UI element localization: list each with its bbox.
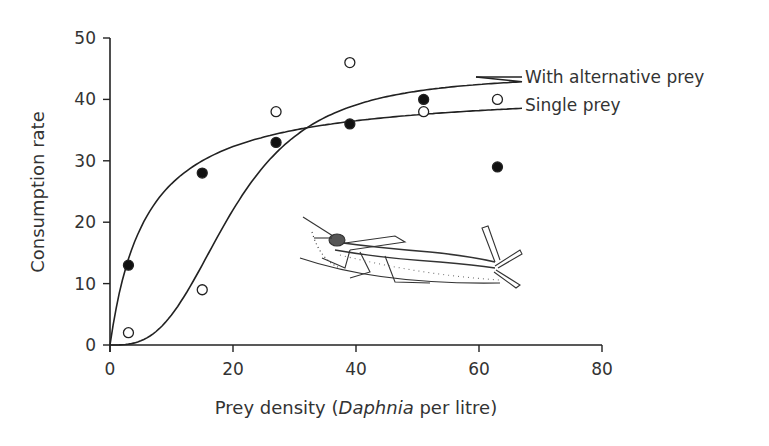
single-prey-point: [123, 260, 133, 270]
functional-response-chart: 020406080 01020304050 Consumption rate P…: [0, 0, 769, 446]
single-prey-point: [345, 119, 355, 129]
alternative-prey-point: [419, 107, 429, 117]
alternative-prey-point: [345, 58, 355, 68]
alternative-prey-point: [271, 107, 281, 117]
y-tick-label: 50: [74, 28, 96, 48]
alternative-prey-curve: [110, 77, 522, 345]
single-prey-point: [271, 137, 281, 147]
damselfly-larva-illustration: [300, 217, 522, 288]
y-tick-label: 30: [74, 151, 96, 171]
x-tick-label: 20: [222, 359, 244, 379]
x-tick-label: 60: [468, 359, 490, 379]
x-tick-label: 0: [105, 359, 116, 379]
label-single-prey: Single prey: [525, 95, 621, 115]
single-prey-point: [197, 168, 207, 178]
y-axis-title: Consumption rate: [27, 111, 48, 273]
label-with-alternative-prey: With alternative prey: [525, 67, 704, 87]
alternative-prey-point: [492, 94, 502, 104]
x-tick-label: 40: [345, 359, 367, 379]
y-tick-label: 20: [74, 212, 96, 232]
x-tick-label: 80: [591, 359, 613, 379]
y-tick-label: 0: [85, 335, 96, 355]
single-prey-curve: [110, 108, 522, 345]
single-prey-point: [419, 94, 429, 104]
y-ticks: 01020304050: [74, 28, 110, 355]
x-axis-title: Prey density (Daphnia per litre): [215, 397, 497, 418]
data-points: [123, 58, 502, 338]
alternative-prey-point: [123, 328, 133, 338]
single-prey-point: [492, 162, 502, 172]
y-tick-label: 10: [74, 274, 96, 294]
y-tick-label: 40: [74, 89, 96, 109]
alternative-prey-point: [197, 285, 207, 295]
x-ticks: 020406080: [105, 345, 613, 379]
